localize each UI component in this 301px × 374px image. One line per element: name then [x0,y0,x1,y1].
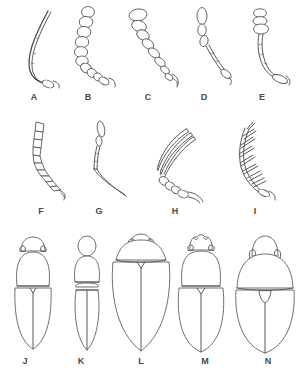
figure-m-body-oblong [172,232,232,358]
figure-label-g: G [89,206,109,216]
figure-label-a: A [24,92,44,102]
figure-g-geniculate-antenna [76,120,138,206]
figure-label-j: J [15,356,35,366]
figure-c-clavate-antenna [122,6,184,92]
figure-label-n: N [258,356,278,366]
figure-n-body-rounded-oval [232,232,298,358]
figure-label-b: B [78,92,98,102]
figure-label-f: F [31,206,51,216]
figure-label-h: H [165,206,185,216]
figure-label-e: E [252,92,272,102]
figure-label-c: C [138,92,158,102]
figure-label-l: L [131,356,151,366]
figure-b-moniliform-antenna [64,6,126,92]
figure-f-serrate-antenna [16,120,76,206]
figure-label-i: I [245,206,265,216]
figure-h-lamellate-antenna [146,120,214,206]
illustration-plate: A B C [0,0,301,374]
figure-label-d: D [194,92,214,102]
figure-a-filiform-antenna [12,8,72,92]
figure-d-capitate-antenna [184,6,242,92]
figure-i-pectinate-antenna [228,120,290,206]
figure-e-clubbed-antenna [238,6,296,92]
figure-label-k: K [71,356,91,366]
figure-l-body-broad-oval [108,232,174,358]
figure-k-body-narrow [66,234,108,356]
figure-j-body-elongate [8,234,58,356]
figure-label-m: M [195,356,215,366]
